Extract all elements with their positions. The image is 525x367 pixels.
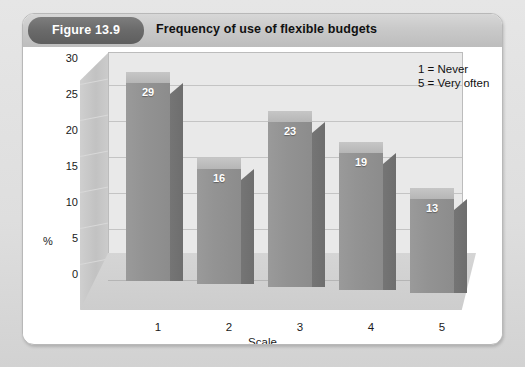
y-tick-15: 15	[52, 160, 78, 172]
bar-top-face	[410, 188, 454, 199]
bar-value-label: 29	[126, 86, 170, 98]
y-axis: 30 25 20 15 10 5 0	[40, 52, 78, 314]
legend-line-2: 5 = Very often	[418, 76, 489, 90]
y-tick-30: 30	[52, 52, 78, 64]
y-tick-0: 0	[52, 268, 78, 280]
left-wall-gridline	[80, 186, 109, 193]
left-wall-gridline	[80, 114, 109, 121]
bar-top-face	[126, 72, 170, 83]
y-tick-20: 20	[52, 124, 78, 136]
bar-value-label: 19	[339, 156, 383, 168]
x-axis-label: Scale	[23, 336, 502, 345]
bar-side-face	[241, 169, 254, 284]
legend-line-1: 1 = Never	[418, 62, 489, 76]
bar-value-label: 16	[197, 172, 241, 184]
bar-value-label: 23	[268, 125, 312, 137]
bar-top-face	[197, 158, 241, 169]
y-axis-label: %	[43, 235, 53, 247]
x-tick-5: 5	[422, 321, 462, 333]
bar-scale-3[interactable]: 23	[268, 111, 312, 287]
bar-front-face	[197, 169, 241, 284]
left-wall-gridline	[80, 78, 109, 85]
bar-top-face	[339, 142, 383, 153]
plot-area: 1 = Never 5 = Very often 29 16 23	[80, 52, 476, 314]
x-tick-4: 4	[351, 321, 391, 333]
figure-header: Figure 13.9 Frequency of use of flexible…	[23, 14, 502, 47]
x-tick-3: 3	[280, 321, 320, 333]
bar-front-face	[126, 83, 170, 281]
bar-scale-2[interactable]: 16	[197, 158, 241, 284]
y-tick-25: 25	[52, 88, 78, 100]
y-tick-5: 5	[52, 232, 78, 244]
bar-scale-1[interactable]: 29	[126, 72, 170, 281]
bar-side-face	[312, 122, 325, 287]
bar-top-face	[268, 111, 312, 122]
figure-title: Frequency of use of flexible budgets	[156, 22, 377, 36]
bar-value-label: 13	[410, 202, 454, 214]
bar-front-face	[339, 153, 383, 290]
bar-side-face	[454, 199, 467, 293]
left-wall-gridline	[80, 150, 109, 157]
bar-scale-4[interactable]: 19	[339, 142, 383, 290]
x-tick-2: 2	[209, 321, 249, 333]
chart-area: 30 25 20 15 10 5 0 %	[23, 47, 502, 343]
bar-front-face	[268, 122, 312, 287]
figure-number-badge: Figure 13.9	[28, 17, 144, 44]
chart-legend: 1 = Never 5 = Very often	[418, 62, 489, 90]
figure-card: Figure 13.9 Frequency of use of flexible…	[22, 13, 503, 345]
bar-side-face	[383, 153, 396, 290]
bar-side-face	[170, 83, 183, 281]
left-wall-gridline	[80, 222, 109, 229]
x-tick-1: 1	[138, 321, 178, 333]
y-tick-10: 10	[52, 196, 78, 208]
bar-scale-5[interactable]: 13	[410, 188, 454, 293]
